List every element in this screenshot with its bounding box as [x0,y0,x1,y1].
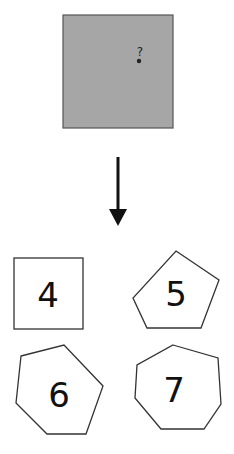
source-square [63,15,173,128]
down-arrow-icon [109,157,127,226]
option-label: 6 [48,375,70,415]
option-hexagon[interactable]: 6 [16,345,103,434]
option-label: 4 [37,275,59,315]
option-label: 5 [165,274,187,314]
option-heptagon[interactable]: 7 [135,345,221,429]
dot-marker [137,59,141,63]
puzzle-diagram: ? 4 5 6 7 [0,0,234,454]
question-mark: ? [137,45,143,59]
option-pentagon[interactable]: 5 [133,251,219,328]
option-label: 7 [163,370,185,410]
option-square[interactable]: 4 [14,258,83,329]
